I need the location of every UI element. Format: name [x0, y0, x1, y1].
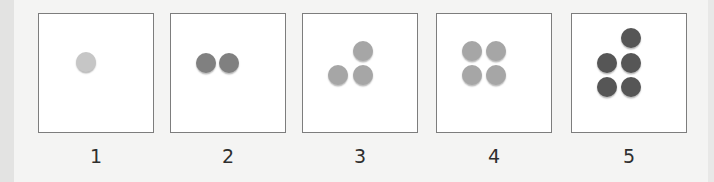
- dot-icon: [196, 53, 216, 73]
- dot-icon: [621, 53, 641, 73]
- right-margin-strip: [708, 0, 714, 182]
- panel-3: [302, 13, 418, 133]
- left-margin-strip: [0, 0, 14, 182]
- dot-icon: [353, 41, 373, 61]
- dot-icon: [76, 52, 96, 72]
- dot-icon: [597, 53, 617, 73]
- panel-label-5: 5: [571, 145, 687, 167]
- panel-2: [170, 13, 286, 133]
- panel-1: [38, 13, 154, 133]
- dot-icon: [621, 77, 641, 97]
- panel-label-2: 2: [170, 145, 286, 167]
- dot-icon: [597, 77, 617, 97]
- dot-icon: [328, 65, 348, 85]
- dot-icon: [219, 53, 239, 73]
- panel-label-3: 3: [302, 145, 418, 167]
- dot-icon: [353, 65, 373, 85]
- dot-icon: [621, 28, 641, 48]
- panel-4: [436, 13, 552, 133]
- panel-5: [571, 13, 687, 133]
- dot-icon: [486, 65, 506, 85]
- dot-icon: [462, 41, 482, 61]
- panel-label-1: 1: [38, 145, 154, 167]
- dot-icon: [462, 65, 482, 85]
- dot-icon: [486, 41, 506, 61]
- panel-label-4: 4: [436, 145, 552, 167]
